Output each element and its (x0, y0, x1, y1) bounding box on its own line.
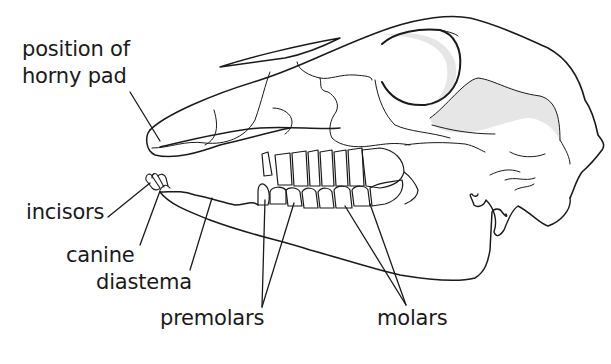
label-horny-pad-line1: position of (22, 36, 130, 62)
incisor-teeth (146, 174, 170, 190)
skull-diagram: position of horny pad incisors canine di… (0, 0, 611, 364)
label-premolars: premolars (160, 305, 264, 331)
suture-7 (510, 152, 545, 157)
leader-diastema (190, 198, 212, 270)
upper-teeth (262, 148, 404, 188)
suture-2 (320, 78, 410, 147)
leader-premolars-1 (262, 200, 265, 307)
leader-incisors (108, 183, 150, 217)
leader-horny-pad (130, 92, 160, 141)
lower-teeth (258, 180, 403, 208)
mandible-upper-edge (404, 172, 418, 204)
suture-6 (560, 140, 570, 164)
suture-9 (205, 110, 217, 145)
suture-4 (405, 143, 485, 152)
leader-premolars-2 (262, 203, 294, 307)
label-incisors: incisors (26, 199, 104, 225)
leader-canine (140, 191, 160, 245)
label-canine: canine (66, 242, 135, 268)
label-horny-pad-line2: horny pad (22, 63, 127, 89)
mandible-outline (160, 192, 258, 205)
skull-outline-rear (470, 194, 570, 236)
suture-1 (297, 62, 372, 80)
suture-8 (490, 170, 535, 190)
nasal-spur (220, 38, 340, 67)
label-diastema: diastema (96, 269, 192, 295)
label-molars: molars (377, 305, 447, 331)
